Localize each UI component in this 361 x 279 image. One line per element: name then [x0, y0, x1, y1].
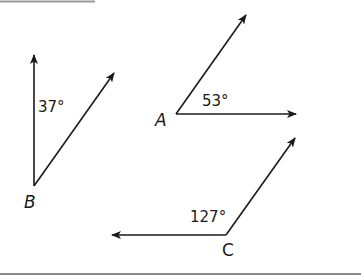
angle-b-measure: 37° [38, 98, 65, 116]
angle-c-measure: 127° [190, 208, 226, 226]
vertex-label-a: A [154, 110, 167, 130]
angle-b-ray-diagonal [34, 73, 114, 186]
angle-a: 53° A [154, 15, 296, 130]
vertex-label-b: B [24, 192, 36, 212]
diagram-svg: 37° B 53° A 127° C [0, 0, 361, 279]
angle-c: 127° C [112, 138, 295, 260]
angle-b: 37° B [24, 55, 114, 212]
angle-a-measure: 53° [202, 92, 229, 110]
angle-diagram: 37° B 53° A 127° C [0, 0, 361, 279]
angle-c-ray-diagonal [226, 138, 295, 235]
vertex-label-c: C [222, 240, 234, 260]
